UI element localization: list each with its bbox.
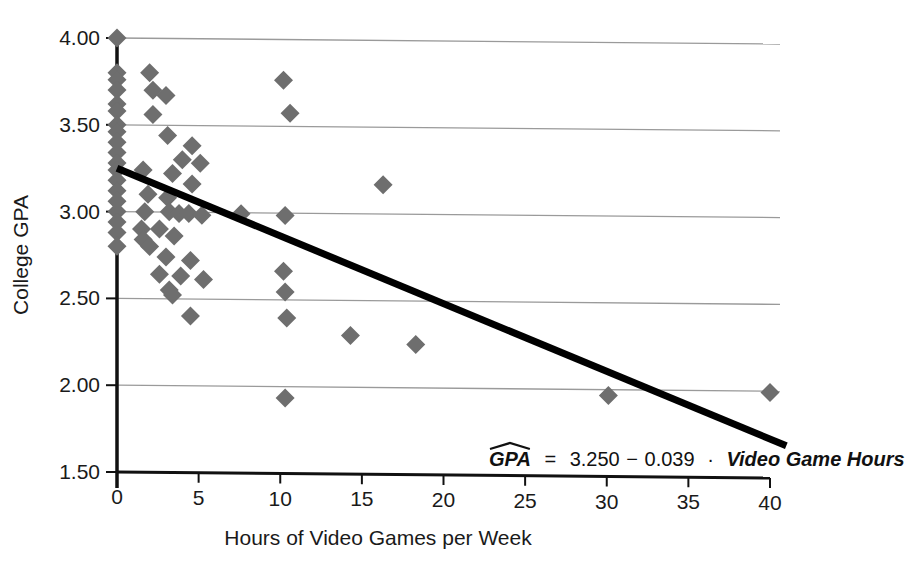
equation-equals: = <box>544 448 556 470</box>
regression-equation-annotation: GPA = 3.250 − 0.039 · Video Game Hours <box>489 443 905 470</box>
data-point <box>156 247 175 266</box>
data-point <box>181 306 200 325</box>
data-point <box>140 63 159 82</box>
x-tick-label: 10 <box>269 487 292 510</box>
data-point <box>108 237 127 256</box>
x-tick-label: 20 <box>432 488 455 511</box>
equation-response-var: GPA <box>489 448 531 470</box>
gridline <box>117 125 780 131</box>
data-point <box>276 388 295 407</box>
x-axis-title: Hours of Video Games per Week <box>224 526 532 549</box>
data-point <box>150 265 169 284</box>
chart-canvas: 1.502.002.503.003.504.00 051015202530354… <box>0 0 923 573</box>
equation-minus: − <box>626 448 638 470</box>
data-point <box>191 154 210 173</box>
y-axis-ticks-group: 1.502.002.503.003.504.00 <box>59 26 117 483</box>
equation-predictor-var: Video Game Hours <box>726 448 904 470</box>
data-point <box>276 282 295 301</box>
data-point <box>181 251 200 270</box>
equation-dot: · <box>707 448 714 470</box>
data-point <box>274 262 293 281</box>
x-tick-label: 30 <box>595 490 618 513</box>
y-tick-label: 2.00 <box>59 373 100 396</box>
data-point <box>761 383 780 402</box>
y-tick-label: 1.50 <box>59 460 100 483</box>
data-point <box>277 309 296 328</box>
x-tick-label: 15 <box>350 487 373 510</box>
equation-text: GPA = 3.250 − 0.039 · Video Game Hours <box>489 448 905 470</box>
y-axis-title: College GPA <box>9 195 32 315</box>
gridlines-group <box>117 38 780 391</box>
data-point <box>183 136 202 155</box>
data-point <box>163 164 182 183</box>
data-point <box>341 326 360 345</box>
data-points-group <box>108 29 780 408</box>
gridline <box>117 38 780 44</box>
trendline <box>117 168 786 446</box>
y-tick-label: 4.00 <box>59 26 100 49</box>
y-tick-label: 2.50 <box>59 286 100 309</box>
data-point <box>274 71 293 90</box>
y-tick-label: 3.00 <box>59 200 100 223</box>
data-point <box>143 105 162 124</box>
data-point <box>599 386 618 405</box>
data-point <box>158 126 177 145</box>
data-point <box>139 185 158 204</box>
x-tick-label: 35 <box>677 490 700 513</box>
data-point <box>281 104 300 123</box>
equation-slope: 0.039 <box>645 448 695 470</box>
x-tick-label: 0 <box>111 485 123 508</box>
data-point <box>108 29 127 48</box>
scatter-chart: 1.502.002.503.003.504.00 051015202530354… <box>0 0 923 573</box>
data-point <box>276 206 295 225</box>
data-point <box>406 335 425 354</box>
data-point <box>374 175 393 194</box>
data-point <box>171 267 190 286</box>
data-point <box>183 175 202 194</box>
data-point <box>173 150 192 169</box>
x-tick-label: 5 <box>193 486 205 509</box>
gridline <box>117 385 780 391</box>
y-tick-label: 3.50 <box>59 113 100 136</box>
data-point <box>194 270 213 289</box>
data-point <box>135 202 154 221</box>
x-tick-label: 40 <box>758 491 781 514</box>
equation-intercept: 3.250 <box>570 448 620 470</box>
x-tick-label: 25 <box>513 489 536 512</box>
